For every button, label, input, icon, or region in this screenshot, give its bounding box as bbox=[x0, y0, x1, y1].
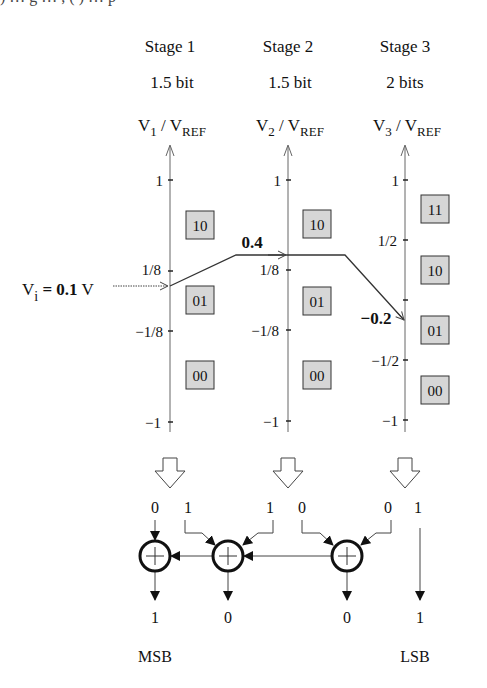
stage-2-axis-label: V2 / VREF bbox=[256, 116, 324, 139]
stage-2-title: Stage 2 bbox=[263, 37, 314, 56]
stage-3-bit-msb: 0 bbox=[384, 499, 392, 516]
code-box-label: 01 bbox=[428, 323, 443, 339]
stage-3-ticks: 1 1/2 −1/2 −1 bbox=[371, 173, 408, 429]
stage-1-axis-label: V1 / VREF bbox=[138, 116, 206, 139]
code-box-label: 11 bbox=[428, 202, 442, 218]
final-bit-0: 1 bbox=[416, 609, 424, 626]
tick-label: 1 bbox=[156, 173, 164, 189]
code-box-label: 10 bbox=[428, 263, 443, 279]
stage-1-resolution: 1.5 bit bbox=[150, 73, 194, 92]
pipeline-adc-diagram: ) … g … , ( ) … p Stage 1 1.5 bit V1 / V… bbox=[0, 0, 487, 688]
stage-1-ticks: 1 1/8 −1/8 −1 bbox=[135, 173, 173, 431]
input-voltage-label: Vi = 0.1 V bbox=[22, 280, 95, 304]
caption-fragment: ) … g … , ( ) … p bbox=[0, 0, 116, 6]
stage-1-bit-msb: 0 bbox=[151, 499, 159, 516]
stage-3-bit-lsb: 1 bbox=[414, 499, 422, 516]
stage-3-resolution: 2 bits bbox=[386, 73, 423, 92]
tick-label: 1/8 bbox=[260, 262, 279, 278]
code-box-label: 00 bbox=[193, 368, 208, 384]
tick-label: 1 bbox=[274, 173, 282, 189]
stage-2-axis bbox=[284, 145, 292, 432]
stage-1-axis bbox=[166, 145, 174, 432]
stage-2-output-arrow-icon bbox=[273, 458, 303, 488]
code-box-label: 10 bbox=[310, 217, 325, 233]
lsb-label: LSB bbox=[400, 648, 429, 665]
stage-1-codes: 10 01 00 bbox=[186, 211, 214, 389]
stage-3-axis bbox=[401, 145, 409, 432]
msb-label: MSB bbox=[138, 648, 172, 665]
stage-1-bit-lsb: 1 bbox=[184, 499, 192, 516]
adder-1 bbox=[140, 541, 170, 571]
stage-2-bit-lsb: 0 bbox=[298, 499, 306, 516]
final-bit-3: 1 bbox=[151, 609, 159, 626]
tick-label: −1 bbox=[263, 414, 279, 430]
tick-label: 1 bbox=[392, 173, 400, 189]
code-box-label: 00 bbox=[428, 383, 443, 399]
stage-3-axis-label: V3 / VREF bbox=[373, 116, 441, 139]
tick-label: −1/2 bbox=[371, 353, 399, 369]
code-box-label: 10 bbox=[193, 218, 208, 234]
final-bit-1: 0 bbox=[343, 609, 351, 626]
adder-wires bbox=[155, 520, 420, 600]
stage-2-bit-msb: 1 bbox=[266, 499, 274, 516]
stage-2-codes: 10 01 00 bbox=[303, 210, 331, 389]
stage-2-header: Stage 2 1.5 bit V2 / VREF bbox=[256, 37, 324, 139]
tick-label: 1/8 bbox=[142, 262, 161, 278]
code-box-label: 01 bbox=[193, 293, 208, 309]
tick-label: 1/2 bbox=[378, 233, 397, 249]
stage-3-header: Stage 3 2 bits V3 / VREF bbox=[373, 37, 441, 139]
stage-1-output-arrow-icon bbox=[155, 458, 185, 488]
tick-label: −1 bbox=[145, 415, 161, 431]
adder-2 bbox=[213, 541, 243, 571]
stage-1-header: Stage 1 1.5 bit V1 / VREF bbox=[138, 37, 206, 139]
adder-3 bbox=[332, 541, 362, 571]
stage-2-resolution: 1.5 bit bbox=[268, 73, 312, 92]
stage-3-output-arrow-icon bbox=[390, 458, 420, 488]
tick-label: −1/8 bbox=[251, 323, 279, 339]
tick-label: −1 bbox=[382, 413, 398, 429]
residue-arrow-stage-3 bbox=[395, 310, 404, 320]
code-box-label: 00 bbox=[310, 368, 325, 384]
residue-label-stage-2: 0.4 bbox=[241, 233, 263, 252]
final-bit-2: 0 bbox=[224, 609, 232, 626]
tick-label: −1/8 bbox=[135, 324, 163, 340]
stage-3-codes: 11 10 01 00 bbox=[421, 195, 449, 404]
stage-3-title: Stage 3 bbox=[380, 37, 431, 56]
stage-1-title: Stage 1 bbox=[145, 37, 196, 56]
residue-label-stage-3: −0.2 bbox=[361, 309, 392, 328]
code-box-label: 01 bbox=[310, 294, 325, 310]
stage-2-ticks: 1 1/8 −1/8 −1 bbox=[251, 173, 291, 430]
